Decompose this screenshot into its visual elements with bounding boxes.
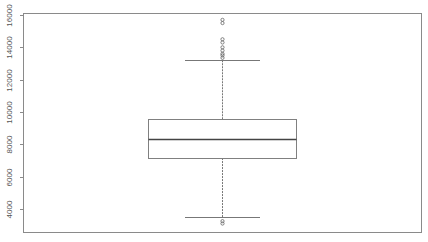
outlier-point [221, 21, 224, 24]
y-tick-label: 14000 [5, 36, 14, 59]
y-tick-label: 4000 [5, 200, 14, 218]
y-tick-label: 6000 [5, 168, 14, 186]
outlier-point [221, 18, 224, 21]
y-tick-label: 8000 [5, 135, 14, 153]
box-element [149, 60, 297, 217]
boxplot-chart: 40006000800010000120001400016000 [0, 0, 428, 242]
y-tick-label: 12000 [5, 69, 14, 92]
outlier-point [221, 46, 224, 49]
y-tick-label: 16000 [5, 4, 14, 27]
outlier-point [221, 49, 224, 52]
y-axis: 40006000800010000120001400016000 [5, 4, 24, 219]
outlier-point [221, 41, 224, 44]
y-tick-label: 10000 [5, 101, 14, 124]
outlier-point [221, 38, 224, 41]
